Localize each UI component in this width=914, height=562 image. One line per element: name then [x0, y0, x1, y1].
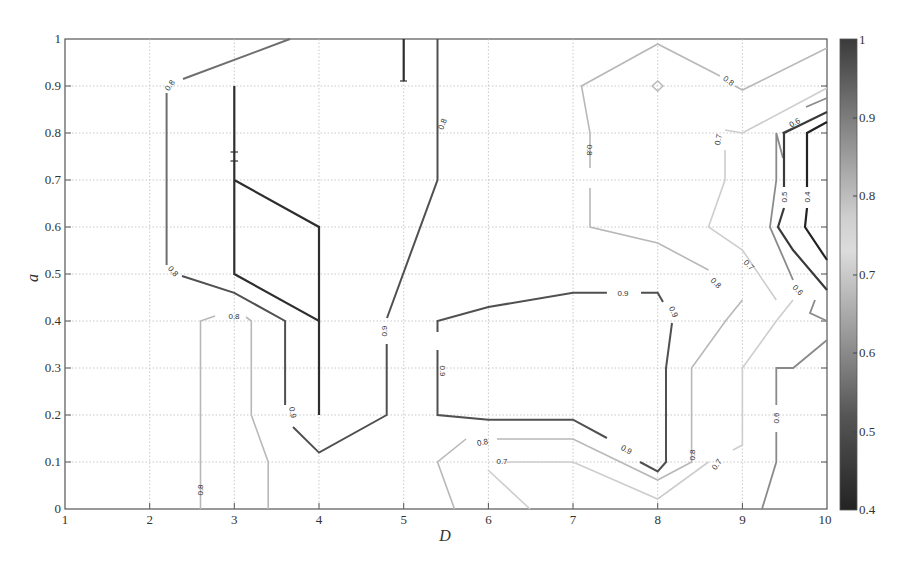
colorbar-tick-0-8: 0.8: [859, 188, 875, 203]
x-tick-2: 2: [146, 512, 153, 527]
y-tick-0-5: 0.5: [45, 266, 61, 281]
contour-label: 0.9: [380, 325, 389, 337]
y-tick-0: 0: [55, 501, 62, 516]
x-axis-title: D: [438, 527, 451, 544]
y-tick-0-9: 0.9: [45, 78, 61, 93]
colorbar-tick-0-9: 0.9: [859, 110, 875, 125]
colorbar-tick-0-4: 0.4: [859, 502, 876, 517]
y-tick-0-1: 0.1: [45, 454, 61, 469]
contour-label: 0.8: [228, 312, 240, 321]
x-tick-5: 5: [400, 512, 407, 527]
y-tick-0-8: 0.8: [45, 125, 61, 140]
y-tick-1: 1: [55, 31, 62, 46]
colorbar-tick-0-5: 0.5: [859, 424, 875, 439]
colorbar: 0.4 0.5 0.6 0.7 0.8 0.9 1: [840, 32, 876, 517]
x-tick-10: 10: [819, 512, 832, 527]
contour-label: 0.5: [780, 191, 789, 203]
x-tick-4: 4: [316, 512, 323, 527]
contour-label: 0.7: [496, 457, 508, 466]
colorbar-tick-1: 1: [859, 32, 866, 47]
contour-label: 0.9: [617, 289, 629, 298]
contour-label: 0.8: [585, 144, 594, 156]
y-tick-0-6: 0.6: [45, 219, 62, 234]
contour-label: 0.4: [803, 191, 812, 203]
x-tick-3: 3: [231, 512, 238, 527]
x-tick-6: 6: [485, 512, 492, 527]
contour-label: 0.8: [688, 449, 697, 461]
x-tick-9: 9: [739, 512, 746, 527]
y-tick-0-4: 0.4: [45, 313, 62, 328]
y-tick-0-3: 0.3: [45, 360, 61, 375]
x-tick-labels: 1 2 3 4 5 6 7 8 9 10: [62, 512, 832, 527]
contour-chart: 1 2 3 4 5 6 7 8 9 10 0 0.1 0.2 0.3 0.4 0…: [0, 0, 914, 562]
x-tick-8: 8: [654, 512, 661, 527]
contour-label: 0.9: [438, 365, 447, 377]
colorbar-tick-0-7: 0.7: [859, 267, 876, 282]
y-axis-title: a: [24, 274, 41, 282]
y-tick-0-7: 0.7: [45, 172, 62, 187]
contour-label: 0.8: [196, 484, 205, 496]
y-tick-0-2: 0.2: [45, 407, 61, 422]
x-tick-1: 1: [62, 512, 69, 527]
colorbar-tick-0-6: 0.6: [859, 345, 876, 360]
contour-label: 0.6: [772, 412, 781, 424]
x-tick-7: 7: [570, 512, 577, 527]
y-tick-labels: 0 0.1 0.2 0.3 0.4 0.5 0.6 0.7 0.8 0.9 1: [45, 31, 62, 516]
